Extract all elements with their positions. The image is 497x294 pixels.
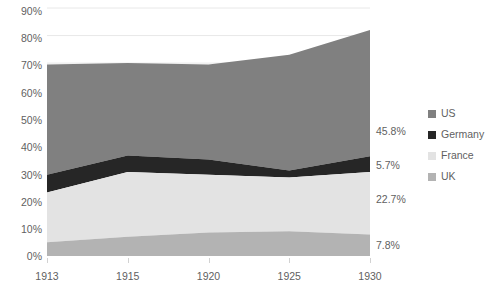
legend-item-germany[interactable]: Germany	[428, 124, 497, 145]
x-tick-label-1915: 1915	[116, 271, 139, 282]
x-tick-mark-1930	[370, 258, 371, 263]
legend-label-germany: Germany	[441, 129, 484, 140]
y-tick-label-90: 90%	[0, 6, 42, 17]
value-label-france: 22.7%	[376, 194, 406, 205]
value-label-uk: 7.8%	[376, 240, 400, 251]
x-tick-label-1913: 1913	[35, 271, 58, 282]
legend-swatch-germany-icon	[428, 131, 436, 139]
x-tick-label-1920: 1920	[197, 271, 220, 282]
legend-item-uk[interactable]: UK	[428, 166, 497, 187]
y-tick-label-80: 80%	[0, 33, 42, 44]
x-tick-label-1925: 1925	[278, 271, 301, 282]
y-tick-label-30: 30%	[0, 170, 42, 181]
area-us	[47, 30, 370, 175]
legend-label-france: France	[441, 150, 474, 161]
value-label-us: 45.8%	[376, 126, 406, 137]
legend-swatch-us-icon	[428, 110, 436, 118]
legend-swatch-uk-icon	[428, 173, 436, 181]
y-tick-label-10: 10%	[0, 224, 42, 235]
legend-item-france[interactable]: France	[428, 145, 497, 166]
x-axis: 19131915192019251930	[47, 258, 370, 282]
y-tick-label-50: 50%	[0, 115, 42, 126]
y-tick-label-70: 70%	[0, 60, 42, 71]
value-label-germany: 5.7%	[376, 160, 400, 171]
plot-area	[47, 8, 370, 256]
stacked-area-chart: 90% 80% 70% 60% 50% 40% 30% 20% 10% 0% 1…	[0, 0, 497, 294]
series-value-labels: 45.8% 5.7% 22.7% 7.8%	[376, 0, 428, 294]
legend-swatch-france-icon	[428, 152, 436, 160]
x-tick-mark-1913	[47, 258, 48, 263]
y-axis: 90% 80% 70% 60% 50% 40% 30% 20% 10% 0%	[0, 0, 42, 264]
legend-label-us: US	[441, 108, 456, 119]
legend-label-uk: UK	[441, 171, 456, 182]
y-tick-label-0: 0%	[0, 251, 42, 262]
y-tick-label-60: 60%	[0, 88, 42, 99]
plot-svg	[47, 8, 370, 256]
x-tick-mark-1915	[128, 258, 129, 263]
y-tick-label-20: 20%	[0, 197, 42, 208]
legend-item-us[interactable]: US	[428, 103, 497, 124]
x-tick-mark-1925	[289, 258, 290, 263]
area-france	[47, 172, 370, 242]
y-tick-label-40: 40%	[0, 142, 42, 153]
legend: US Germany France UK	[428, 103, 497, 187]
area-series-group	[47, 30, 370, 256]
x-tick-mark-1920	[209, 258, 210, 263]
